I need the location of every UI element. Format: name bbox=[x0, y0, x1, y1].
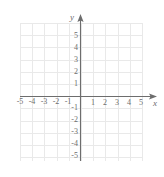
x-tick-label-neg3: -3 bbox=[39, 98, 49, 106]
x-tick-label-neg5: -5 bbox=[15, 98, 25, 106]
y-tick-label-neg4: -4 bbox=[68, 140, 78, 148]
y-tick-label-1: 1 bbox=[68, 80, 78, 88]
x-axis-label: x bbox=[153, 99, 157, 108]
x-tick-label-neg4: -4 bbox=[27, 98, 37, 106]
x-tick-label-4: 4 bbox=[124, 99, 134, 107]
y-axis-label: y bbox=[70, 13, 74, 22]
y-tick-label-2: 2 bbox=[68, 68, 78, 76]
x-tick-label-3: 3 bbox=[112, 99, 122, 107]
y-tick-label-neg1: -1 bbox=[68, 104, 78, 112]
x-tick-label-5: 5 bbox=[136, 99, 146, 107]
y-tick-label-3: 3 bbox=[68, 56, 78, 64]
coordinate-plane-figure: y x -5 -4 -3 -2 -1 1 2 3 4 5 5 4 3 2 1 -… bbox=[0, 0, 164, 177]
y-tick-label-neg2: -2 bbox=[68, 116, 78, 124]
x-tick-label-neg2: -2 bbox=[51, 98, 61, 106]
x-tick-label-2: 2 bbox=[100, 99, 110, 107]
y-tick-label-5: 5 bbox=[68, 32, 78, 40]
x-tick-label-1: 1 bbox=[88, 99, 98, 107]
axes-layer bbox=[0, 0, 164, 177]
y-tick-label-4: 4 bbox=[68, 44, 78, 52]
y-tick-label-neg3: -3 bbox=[68, 128, 78, 136]
y-tick-label-neg5: -5 bbox=[68, 152, 78, 160]
